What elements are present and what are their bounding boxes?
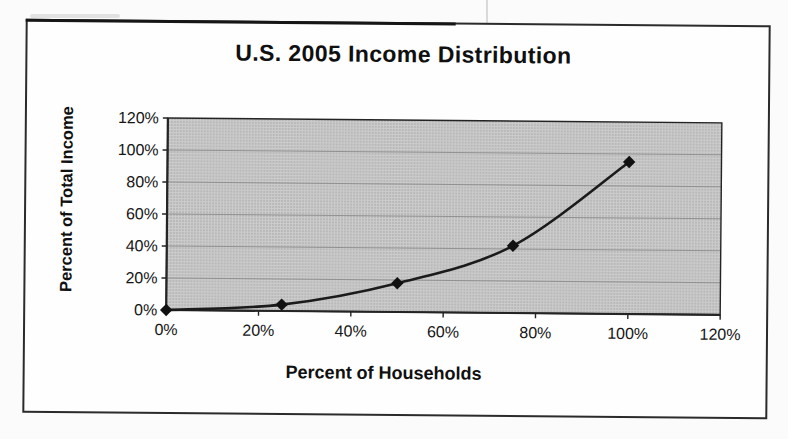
x-tick-label: 80%	[519, 324, 551, 341]
x-tick-label: 120%	[699, 326, 740, 343]
y-tick-label: 60%	[126, 205, 158, 222]
scan-smudge-artifact	[30, 14, 120, 18]
x-tick-label: 60%	[427, 323, 459, 340]
figure-frame: U.S. 2005 Income Distribution Percent of…	[22, 19, 770, 419]
y-tick-label: 120%	[118, 109, 159, 126]
x-tick-label: 0%	[154, 321, 177, 338]
x-tick-label: 40%	[335, 322, 367, 339]
y-tick-label: 20%	[125, 269, 157, 286]
x-tick-label: 20%	[242, 322, 274, 339]
y-tick-label: 80%	[126, 173, 158, 190]
x-tick-label: 100%	[607, 325, 648, 342]
scanned-page: U.S. 2005 Income Distribution Percent of…	[0, 0, 788, 439]
y-tick-label: 0%	[134, 301, 157, 318]
y-tick-label: 100%	[118, 141, 159, 158]
lorenz-curve-chart: 0%20%40%60%80%100%120%0%20%40%60%80%100%…	[24, 21, 768, 417]
y-tick-label: 40%	[126, 237, 158, 254]
